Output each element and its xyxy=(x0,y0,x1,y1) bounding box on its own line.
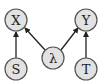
graphical-model-diagram: X Y S λ T xyxy=(0,0,106,84)
node-lambda-label: λ xyxy=(49,51,57,66)
node-y: Y xyxy=(75,9,97,31)
node-s: S xyxy=(5,58,27,80)
node-t: T xyxy=(75,58,97,80)
node-t-label: T xyxy=(82,62,91,77)
node-x: X xyxy=(5,9,27,31)
edge-lambda-to-y xyxy=(61,28,78,50)
node-lambda: λ xyxy=(42,47,64,69)
edge-lambda-to-x xyxy=(25,28,45,50)
node-s-label: S xyxy=(12,62,21,77)
node-x-label: X xyxy=(11,13,21,28)
node-y-label: Y xyxy=(81,13,91,28)
